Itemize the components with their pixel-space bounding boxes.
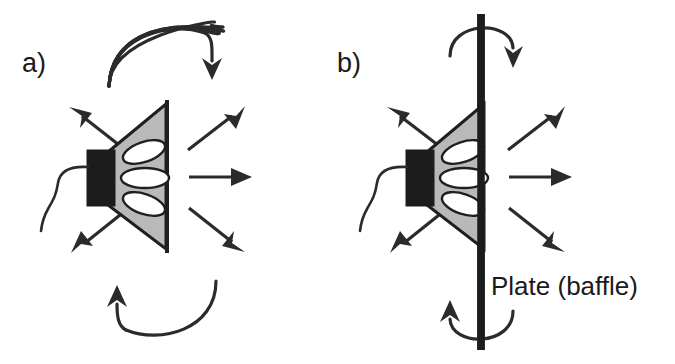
panel-b-speaker-magnet	[406, 150, 434, 206]
panel-a-label: a)	[22, 48, 46, 78]
panel-a-speaker-magnet	[87, 150, 115, 206]
panel-a-cone-hole-middle	[121, 168, 169, 188]
panel-b-caption: Plate (baffle)	[491, 271, 638, 301]
diagram-canvas: a)	[0, 0, 675, 364]
figure-root: a)	[0, 0, 675, 364]
panel-b-label: b)	[337, 48, 361, 78]
